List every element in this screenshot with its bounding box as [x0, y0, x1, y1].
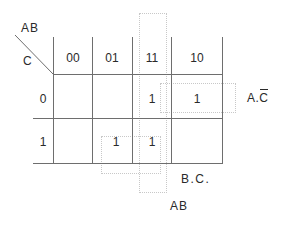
column-header-11: 11	[142, 52, 162, 64]
column-variable-label: AB	[21, 22, 39, 34]
group-label-a-cbar: A.C	[247, 92, 269, 104]
group-label-bc: B.C.	[181, 173, 210, 185]
grid-line	[132, 37, 133, 163]
group-label-ab: AB	[170, 200, 188, 212]
grid-line	[33, 163, 223, 164]
row-header-0: 0	[33, 93, 53, 105]
grid-line	[33, 118, 223, 119]
cell-r0-c10: 1	[187, 93, 207, 105]
cell-r1-c11: 1	[142, 136, 162, 148]
row-variable-label: C	[23, 55, 32, 67]
column-header-01: 01	[102, 52, 122, 64]
grid-line	[53, 74, 223, 75]
column-header-00: 00	[63, 52, 83, 64]
grid-line	[171, 37, 172, 163]
grid-line	[53, 37, 54, 163]
group-label-cbar-part: C	[259, 92, 268, 104]
column-header-10: 10	[187, 52, 207, 64]
group-label-a-part: A.	[247, 91, 259, 105]
cell-r1-c01: 1	[106, 136, 126, 148]
grid-line	[92, 37, 93, 163]
grid-line	[222, 37, 223, 163]
cell-r0-c11: 1	[142, 93, 162, 105]
row-header-1: 1	[33, 136, 53, 148]
